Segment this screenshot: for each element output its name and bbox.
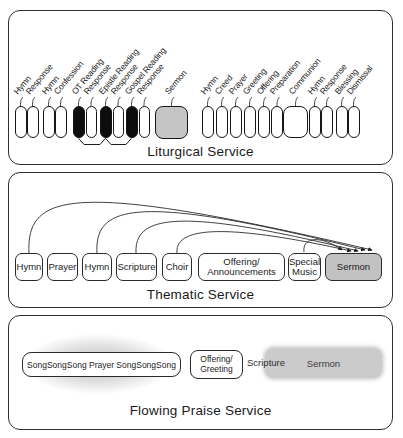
- liturgical-pill-dismissal: [348, 106, 360, 138]
- liturgical-pill-prayer: [230, 106, 242, 138]
- liturgical-pill-gospel-reading: [126, 106, 138, 138]
- thematic-box-label: Hymn: [85, 262, 110, 272]
- flowing-box-songs-prayer: SongSongSong Prayer SongSongSong: [22, 352, 181, 377]
- thematic-box-hymn-1: Hymn: [15, 253, 43, 281]
- thematic-box-hymn-2: Hymn: [82, 253, 112, 281]
- liturgical-pill-hymn-4: [309, 106, 321, 138]
- liturgical-pill-hymn-1: [15, 106, 27, 138]
- thematic-box-prayer: Prayer: [47, 253, 78, 281]
- liturgical-pill-response-1: [27, 106, 39, 138]
- liturgical-box-communion: [283, 106, 308, 138]
- liturgical-pill-creed: [216, 106, 228, 138]
- thematic-box-choir: Choir: [162, 253, 192, 281]
- flowing-scripture-label: Scripture: [247, 357, 285, 368]
- liturgical-pill-greeting: [244, 106, 256, 138]
- liturgical-pill-response-5: [321, 106, 333, 138]
- liturgical-pill-epistle-reading: [100, 106, 112, 138]
- liturgical-pill-response-3: [113, 106, 125, 138]
- flowing-song-label: SongSongSong Prayer SongSongSong: [27, 360, 176, 370]
- liturgical-pill-confession: [55, 106, 67, 138]
- thematic-panel-title: Thematic Service: [9, 287, 392, 302]
- thematic-box-label: Music: [292, 267, 317, 277]
- liturgical-pill-hymn-2: [43, 106, 55, 138]
- liturgical-panel-title: Liturgical Service: [9, 144, 392, 159]
- service-structures-diagram: Liturgical Service Thematic Service Flow…: [0, 0, 403, 438]
- liturgical-pill-ot-reading: [73, 106, 85, 138]
- thematic-box-label: Sermon: [337, 262, 370, 272]
- thematic-box-label: Choir: [166, 262, 189, 272]
- thematic-box-label: Scripture: [117, 262, 155, 272]
- thematic-box-special-music: Special Music: [288, 253, 321, 281]
- thematic-box-label: Announcements: [207, 267, 276, 277]
- flowing-sermon-label: Sermon: [307, 358, 340, 369]
- flowing-offering-label: Greeting: [200, 365, 233, 374]
- thematic-box-scripture: Scripture: [116, 253, 157, 281]
- flowing-box-offering-greeting: Offering/ Greeting: [190, 350, 243, 379]
- liturgical-box-sermon: [155, 106, 188, 139]
- thematic-box-label: Prayer: [49, 262, 77, 272]
- thematic-box-label: Hymn: [17, 262, 42, 272]
- flowing-panel-title: Flowing Praise Service: [9, 403, 392, 418]
- thematic-box-offering-announcements: Offering/ Announcements: [198, 253, 285, 281]
- liturgical-pill-hymn-3: [202, 106, 214, 138]
- thematic-panel: Thematic Service: [8, 172, 393, 308]
- liturgical-pill-preparation: [271, 106, 283, 138]
- thematic-box-sermon: Sermon: [325, 253, 382, 281]
- liturgical-pill-blessing: [336, 106, 348, 138]
- liturgical-pill-response-4: [139, 106, 151, 138]
- liturgical-pill-offering: [258, 106, 270, 138]
- liturgical-pill-response-2: [86, 106, 98, 138]
